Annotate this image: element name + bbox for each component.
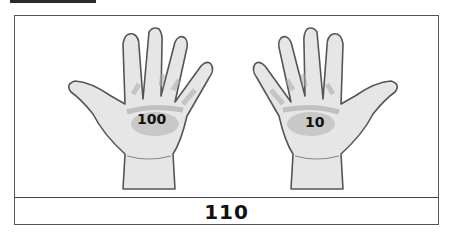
figure-frame: 100 10 110 <box>14 15 439 225</box>
right-hand-value: 10 <box>305 114 324 130</box>
left-hand-value: 100 <box>137 111 166 127</box>
left-hand-image: 100 <box>63 24 233 199</box>
divider-line <box>15 197 438 198</box>
hands-illustration: 100 10 <box>15 16 438 198</box>
right-hand-image: 10 <box>233 24 403 199</box>
cropped-top-strip <box>10 0 96 3</box>
total-value: 110 <box>15 199 438 225</box>
